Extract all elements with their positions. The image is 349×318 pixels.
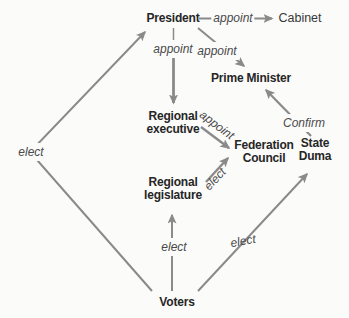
edge-label-state-duma-prime-minister: Confirm xyxy=(281,114,327,132)
edge-label-voters-regional-legislature: elect xyxy=(159,238,188,256)
node-voters: Voters xyxy=(159,296,194,309)
node-regional-executive: Regional executive xyxy=(144,110,202,136)
edge-label-president-prime-minister: appoint xyxy=(195,42,238,60)
node-regional-legislature: Regional legislature xyxy=(143,176,203,202)
node-state-duma: State Duma xyxy=(295,137,335,163)
government-structure-diagram: appoint appoint appoint appoint elect Co… xyxy=(0,0,349,318)
arrow-voters-to-president xyxy=(30,32,152,291)
node-president: President xyxy=(147,12,200,25)
edge-label-president-regional-executive: appoint xyxy=(151,40,194,58)
node-cabinet: Cabinet xyxy=(278,12,321,25)
edge-label-voters-president: elect xyxy=(16,143,45,161)
node-federation-council: Federation Council xyxy=(234,139,294,165)
node-prime-minister: Prime Minister xyxy=(211,72,291,85)
edge-label-president-cabinet: appoint xyxy=(211,9,254,27)
